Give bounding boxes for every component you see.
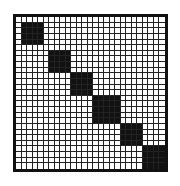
block-diagonal-matrix-grid (13, 14, 168, 172)
filled-cell (159, 163, 165, 169)
